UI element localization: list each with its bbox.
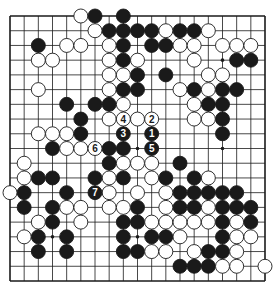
white-stone: [60, 127, 74, 141]
black-stone: [216, 112, 230, 126]
white-stone: [173, 215, 187, 229]
black-stone: [244, 53, 258, 67]
black-stone: [116, 171, 130, 185]
black-stone: [216, 230, 230, 244]
white-stone: [145, 156, 159, 170]
black-stone: [187, 186, 201, 200]
black-stone: [216, 83, 230, 97]
white-stone: [60, 200, 74, 214]
black-stone: [216, 215, 230, 229]
star-point: [136, 235, 140, 239]
white-stone: [173, 230, 187, 244]
black-stone: [201, 259, 215, 273]
white-stone: [173, 83, 187, 97]
white-stone: [116, 68, 130, 82]
black-stone: [216, 97, 230, 111]
black-stone: [31, 230, 45, 244]
white-stone: [88, 24, 102, 38]
black-stone: [201, 186, 215, 200]
white-stone: [159, 24, 173, 38]
white-stone: [116, 200, 130, 214]
black-stone: [216, 186, 230, 200]
white-stone: [244, 38, 258, 52]
white-stone: [187, 97, 201, 111]
black-stone: [46, 142, 60, 156]
white-stone: [131, 156, 145, 170]
black-stone: [116, 142, 130, 156]
black-stone: [230, 200, 244, 214]
black-stone: [31, 38, 45, 52]
white-stone: [230, 38, 244, 52]
black-stone: [173, 186, 187, 200]
black-stone: [116, 230, 130, 244]
black-stone: [88, 9, 102, 23]
white-stone: [116, 156, 130, 170]
white-stone: [187, 53, 201, 67]
black-stone: [173, 200, 187, 214]
white-stone: [46, 127, 60, 141]
white-stone: [201, 68, 215, 82]
black-stone: [173, 259, 187, 273]
white-stone: [74, 142, 88, 156]
black-stone: [230, 186, 244, 200]
black-stone: [88, 97, 102, 111]
white-stone: [201, 112, 215, 126]
white-stone: [159, 215, 173, 229]
black-stone: [230, 53, 244, 67]
white-stone: [17, 171, 31, 185]
white-stone: [31, 83, 45, 97]
white-stone: [230, 245, 244, 259]
black-stone: [31, 171, 45, 185]
black-stone: [60, 97, 74, 111]
black-stone: [187, 200, 201, 214]
black-stone: [116, 83, 130, 97]
black-stone: [102, 97, 116, 111]
black-stone: [74, 127, 88, 141]
black-stone: [116, 245, 130, 259]
white-stone: [31, 127, 45, 141]
white-stone: [201, 24, 215, 38]
white-stone: [201, 171, 215, 185]
white-stone: [17, 230, 31, 244]
go-board: 1234567: [0, 0, 279, 292]
black-stone: [131, 83, 145, 97]
black-stone: [187, 83, 201, 97]
black-stone: [145, 230, 159, 244]
numbered-move-2: 2: [145, 112, 159, 126]
white-stone: [102, 200, 116, 214]
star-point: [136, 147, 140, 151]
black-stone: [145, 24, 159, 38]
black-stone: [102, 142, 116, 156]
black-stone: [131, 24, 145, 38]
white-stone: [31, 53, 45, 67]
white-stone: [102, 53, 116, 67]
black-stone: [187, 171, 201, 185]
white-stone: [46, 53, 60, 67]
white-stone: [216, 38, 230, 52]
black-stone: [17, 186, 31, 200]
black-stone: [46, 171, 60, 185]
move-number-label: 6: [92, 143, 98, 154]
black-stone: [244, 215, 258, 229]
black-stone: [116, 53, 130, 67]
white-stone: [216, 259, 230, 273]
numbered-move-1: 1: [145, 127, 159, 141]
move-number-label: 2: [149, 114, 155, 125]
white-stone: [74, 9, 88, 23]
black-stone: [116, 215, 130, 229]
black-stone: [159, 68, 173, 82]
black-stone: [173, 156, 187, 170]
white-stone: [74, 38, 88, 52]
move-number-label: 5: [149, 143, 155, 154]
black-stone: [46, 215, 60, 229]
white-stone: [102, 186, 116, 200]
black-stone: [145, 38, 159, 52]
white-stone: [201, 215, 215, 229]
black-stone: [216, 245, 230, 259]
black-stone: [31, 245, 45, 259]
white-stone: [102, 38, 116, 52]
white-stone: [145, 171, 159, 185]
black-stone: [230, 83, 244, 97]
black-stone: [46, 200, 60, 214]
black-stone: [244, 200, 258, 214]
